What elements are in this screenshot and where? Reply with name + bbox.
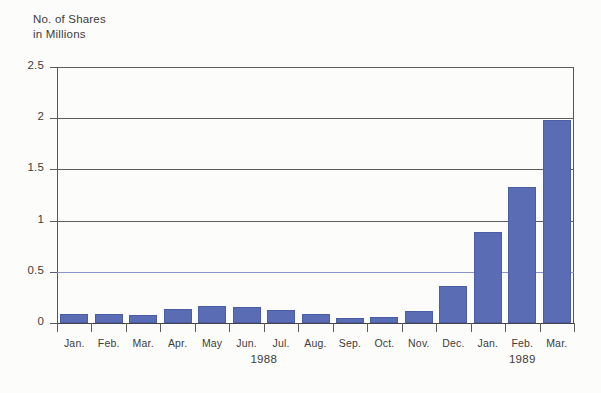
x-axis-tick (574, 323, 575, 332)
x-axis-label: Mar. (535, 337, 579, 349)
y-axis-label: 2 (8, 110, 44, 122)
x-axis-tick (264, 323, 265, 332)
y-axis-tick (50, 118, 57, 119)
x-axis-tick (126, 323, 127, 332)
x-axis-tick (91, 323, 92, 332)
x-axis-tick (229, 323, 230, 332)
x-axis-tick (160, 323, 161, 332)
x-axis-baseline (57, 323, 574, 324)
x-axis-group-label: 1988 (229, 353, 299, 365)
x-axis-tick (436, 323, 437, 332)
axis-title-line-2: in Millions (33, 28, 86, 40)
axis-title-line-1: No. of Shares (33, 13, 106, 25)
bar (267, 310, 295, 323)
bar (198, 306, 226, 323)
x-axis-tick (540, 323, 541, 332)
bar (508, 187, 536, 323)
bar (439, 286, 467, 323)
bar (302, 314, 330, 323)
chart-axis-title: No. of Sharesin Millions (33, 12, 106, 42)
bar (95, 314, 123, 323)
chart-figure: No. of Sharesin Millions 00.511.522.5 Ja… (0, 0, 601, 393)
y-axis-label: 0.5 (8, 264, 44, 276)
y-axis-label: 1 (8, 213, 44, 225)
bar (60, 314, 88, 323)
x-axis-tick (298, 323, 299, 332)
bar (405, 311, 433, 323)
x-axis-group-label: 1989 (487, 353, 557, 365)
bar-series (57, 67, 574, 323)
y-axis-tick (50, 323, 57, 324)
y-axis-label: 1.5 (8, 161, 44, 173)
bar (233, 307, 261, 323)
x-axis-tick (471, 323, 472, 332)
y-axis-tick (50, 169, 57, 170)
bar (129, 315, 157, 323)
y-axis-label: 0 (8, 315, 44, 327)
x-axis-tick (402, 323, 403, 332)
x-axis-tick (367, 323, 368, 332)
bar (164, 309, 192, 323)
x-axis-tick (57, 323, 58, 332)
y-axis-tick (50, 221, 57, 222)
y-axis-label: 2.5 (8, 59, 44, 71)
y-axis-tick (50, 272, 57, 273)
y-axis-tick (50, 67, 57, 68)
x-axis-tick (195, 323, 196, 332)
bar (543, 120, 571, 323)
x-axis-tick (505, 323, 506, 332)
bar (474, 232, 502, 323)
x-axis-tick (333, 323, 334, 332)
